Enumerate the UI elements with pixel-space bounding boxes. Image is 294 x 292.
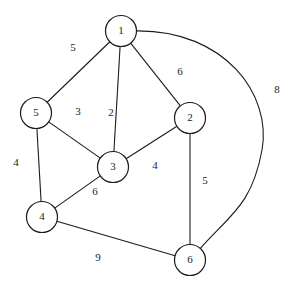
edge-weight-label-3-4: 6 (92, 185, 98, 197)
node-label-5: 5 (33, 106, 39, 118)
edge-weight-label-4-6: 9 (95, 251, 101, 263)
graph-node-1[interactable]: 1 (106, 16, 137, 47)
graph-node-5[interactable]: 5 (21, 98, 52, 129)
graph-edge-1-3 (114, 46, 120, 151)
node-label-1: 1 (118, 24, 124, 36)
graph-edge-1-2 (131, 43, 181, 106)
nodes-layer: 123456 (21, 16, 206, 276)
edge-weight-label-3-2: 4 (152, 159, 158, 171)
edge-weight-label-1-2: 6 (177, 65, 183, 77)
graph-diagram-canvas: 123456 5268344659 (0, 0, 294, 292)
edge-weight-label-5-4: 4 (13, 156, 19, 168)
graph-edge-4-6 (57, 221, 175, 255)
edge-weight-label-1-3: 2 (108, 106, 114, 118)
graph-node-6[interactable]: 6 (175, 245, 206, 276)
graph-node-4[interactable]: 4 (27, 202, 58, 233)
node-label-3: 3 (110, 160, 116, 172)
graph-edge-1-5 (47, 42, 110, 102)
node-label-4: 4 (39, 210, 45, 222)
node-label-2: 2 (187, 111, 193, 123)
graph-edge-5-4 (37, 128, 41, 201)
node-label-6: 6 (187, 253, 193, 265)
graph-edge-3-2 (126, 126, 177, 158)
edge-weight-label-5-3: 3 (75, 105, 81, 117)
edge-weight-label-1-5: 5 (70, 41, 76, 53)
graph-node-3[interactable]: 3 (98, 152, 129, 183)
edges-layer (37, 31, 263, 256)
graph-svg: 123456 5268344659 (0, 0, 294, 292)
edge-weight-label-1-6: 8 (274, 83, 280, 95)
graph-node-2[interactable]: 2 (175, 103, 206, 134)
graph-edge-5-3 (49, 122, 101, 158)
edge-weight-label-2-6: 5 (202, 174, 208, 186)
